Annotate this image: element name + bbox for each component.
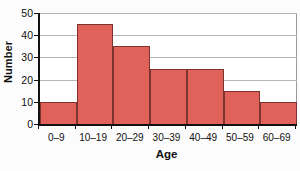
y-axis-title: Number — [0, 0, 16, 124]
x-tick-mark — [75, 124, 76, 129]
x-tick-mark — [258, 124, 259, 129]
y-axis-title-text: Number — [2, 41, 14, 83]
bars — [40, 13, 297, 124]
y-axis-tick-labels: 01020304050 — [16, 7, 35, 131]
y-tick-label: 50 — [21, 8, 33, 19]
x-tick-mark — [111, 124, 112, 129]
x-tick-mark — [148, 124, 149, 129]
bar — [150, 69, 187, 125]
x-tick-label: 0–9 — [48, 131, 65, 145]
x-axis-tick-marks — [38, 124, 297, 130]
x-tick-label: 30–39 — [153, 131, 181, 145]
x-tick-mark — [38, 124, 39, 129]
x-tick-label: 50–59 — [226, 131, 254, 145]
histogram-chart: Number 01020304050 0–910–1920–2930–3940–… — [0, 0, 300, 171]
y-tick-label: 20 — [21, 74, 33, 85]
x-tick-label: 40–49 — [189, 131, 217, 145]
x-tick-label: 20–29 — [116, 131, 144, 145]
y-tick-label: 0 — [27, 119, 33, 130]
y-tick-label: 10 — [21, 97, 33, 108]
bar — [224, 91, 261, 124]
plot-area — [38, 13, 297, 126]
x-tick-mark — [222, 124, 223, 129]
bar — [40, 102, 77, 124]
bar — [77, 24, 114, 124]
x-tick-label: 10–19 — [79, 131, 107, 145]
bar — [260, 102, 297, 124]
x-axis-title: Age — [38, 148, 295, 160]
x-tick-mark — [185, 124, 186, 129]
y-tick-label: 30 — [21, 52, 33, 63]
x-axis-tick-labels: 0–910–1920–2930–3940–4950–5960–69 — [38, 131, 295, 147]
bar — [187, 69, 224, 125]
x-tick-label: 60–69 — [263, 131, 291, 145]
x-tick-mark — [295, 124, 296, 129]
bar — [113, 46, 150, 124]
y-tick-label: 40 — [21, 30, 33, 41]
